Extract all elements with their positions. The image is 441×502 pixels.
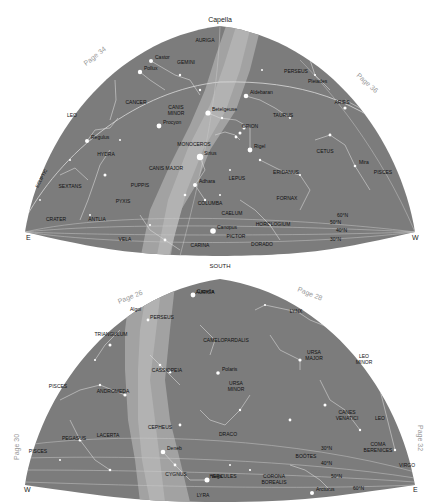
- latitude-label: 40°N: [336, 227, 348, 233]
- latitude-label: 50°N: [330, 219, 342, 225]
- top-right-direction: W: [412, 234, 419, 241]
- constellation-label: CASSIOPEIA: [152, 367, 183, 373]
- constellation-label: MINOR: [356, 359, 373, 365]
- constellation-label: COLUMBA: [198, 200, 223, 206]
- constellation-label: LACERTA: [97, 432, 120, 438]
- page-28-ref[interactable]: Page 28: [296, 285, 323, 302]
- constellation-label: PERSEUS: [150, 314, 175, 320]
- constellation-label: PEGASUS: [62, 435, 87, 441]
- bottom-sky-background: [25, 279, 415, 502]
- constellation-label: SEXTANS: [59, 183, 83, 189]
- latitude-label: 60°N: [353, 485, 365, 491]
- star-charts: AURIGAGEMINIPERSEUSCANCERCANISMINORLEOTA…: [0, 0, 441, 502]
- constellation-label: ORION: [242, 123, 259, 129]
- star-label: Vega: [211, 473, 223, 479]
- latitude-label: 60°N: [337, 212, 349, 218]
- star-label: Mira: [359, 159, 369, 165]
- star-label: Pleiades: [308, 78, 328, 84]
- constellation-label: LEO: [375, 415, 385, 421]
- constellation-label: CETUS: [317, 148, 335, 154]
- star-label: Capella: [197, 288, 214, 294]
- page-30-ref[interactable]: Page 30: [13, 434, 21, 460]
- constellation-label: LEO: [67, 112, 77, 118]
- latitude-label: 50°N: [331, 473, 343, 479]
- constellation-label: MONOCEROS: [177, 141, 211, 147]
- star-label: Arcturus: [316, 486, 335, 492]
- star-label: Sirius: [204, 150, 217, 156]
- constellation-label: ERIDANUS: [273, 169, 300, 175]
- constellation-label: CANCER: [125, 99, 147, 105]
- constellation-label: AURIGA: [195, 37, 215, 43]
- constellation-label: BOREALIS: [261, 479, 287, 485]
- constellation-label: LYRA: [197, 492, 210, 498]
- star-label: Betelgeuse: [212, 106, 237, 112]
- constellation-label: PYXIS: [116, 198, 131, 204]
- star-label: Rigel: [254, 143, 265, 149]
- top-map-title: Capella: [208, 16, 232, 24]
- constellation-label: PISCES: [49, 383, 68, 389]
- page-34-ref[interactable]: Page 34: [82, 45, 108, 67]
- constellation-label: VENATICI: [336, 415, 359, 421]
- constellation-label: VIRGO: [399, 462, 415, 468]
- constellation-label: ANTLIA: [88, 216, 106, 222]
- constellation-label: PISCES: [374, 169, 393, 175]
- star-label: Polaris: [222, 366, 238, 372]
- constellation-label: TRIANGULUM: [94, 331, 127, 337]
- star-label: Algol: [130, 306, 141, 312]
- constellation-label: ANDROMEDA: [97, 388, 130, 394]
- south-label: SOUTH: [210, 263, 231, 269]
- page-32-ref[interactable]: Page 32: [416, 425, 424, 451]
- constellation-label: BERENICES: [364, 447, 394, 453]
- latitude-label: 40°N: [321, 460, 333, 466]
- constellation-label: LEPUS: [229, 175, 246, 181]
- constellation-label: PERSEUS: [284, 68, 309, 74]
- constellation-label: PICTOR: [227, 233, 246, 239]
- constellation-label: MINOR: [168, 110, 185, 116]
- constellation-label: GEMINI: [177, 59, 195, 65]
- star-label: Aldebaran: [250, 89, 273, 95]
- constellation-label: CRATER: [46, 216, 67, 222]
- constellation-label: HOROLOGIUM: [256, 221, 291, 227]
- star-label: Castor: [155, 54, 170, 60]
- constellation-label: CANIS MAJOR: [149, 165, 184, 171]
- bottom-sky-map: [25, 279, 415, 502]
- constellation-label: PISCES: [29, 448, 48, 454]
- bottom-right-direction: E: [413, 486, 418, 493]
- bottom-left-direction: W: [24, 486, 31, 493]
- constellation-label: DRACO: [219, 431, 237, 437]
- constellation-label: CAELUM: [222, 210, 243, 216]
- star-label: Procyon: [163, 119, 182, 125]
- page-26-ref[interactable]: Page 26: [117, 289, 144, 306]
- star-label: Regulus: [91, 134, 110, 140]
- constellation-label: VELA: [119, 236, 132, 242]
- constellation-label: DORADO: [251, 241, 273, 247]
- constellation-label: HYDRA: [97, 151, 115, 157]
- constellation-label: PUPPIS: [131, 182, 150, 188]
- page-36-ref[interactable]: Page 36: [355, 72, 380, 95]
- constellation-label: CARINA: [191, 242, 211, 248]
- star-label: Deneb: [167, 445, 182, 451]
- constellation-label: CYGNUS: [165, 471, 187, 477]
- star-label: Pollux: [144, 65, 158, 71]
- top-left-direction: E: [26, 234, 31, 241]
- constellation-label: MINOR: [228, 386, 245, 392]
- constellation-label: ARIES: [334, 99, 350, 105]
- latitude-label: 30°N: [330, 236, 342, 242]
- latitude-label: 30°N: [321, 445, 333, 451]
- constellation-label: CAMELOPARDALIS: [203, 337, 249, 343]
- star-label: Canopus: [217, 224, 238, 230]
- star-label: Adhara: [199, 178, 215, 184]
- constellation-label: LYNX: [290, 308, 303, 314]
- constellation-label: MAJOR: [305, 355, 323, 361]
- constellation-label: FORNAX: [277, 195, 299, 201]
- constellation-label: CEPHEUS: [148, 424, 173, 430]
- constellation-label: BOÖTES: [296, 453, 318, 459]
- constellation-label: TAURUS: [273, 112, 294, 118]
